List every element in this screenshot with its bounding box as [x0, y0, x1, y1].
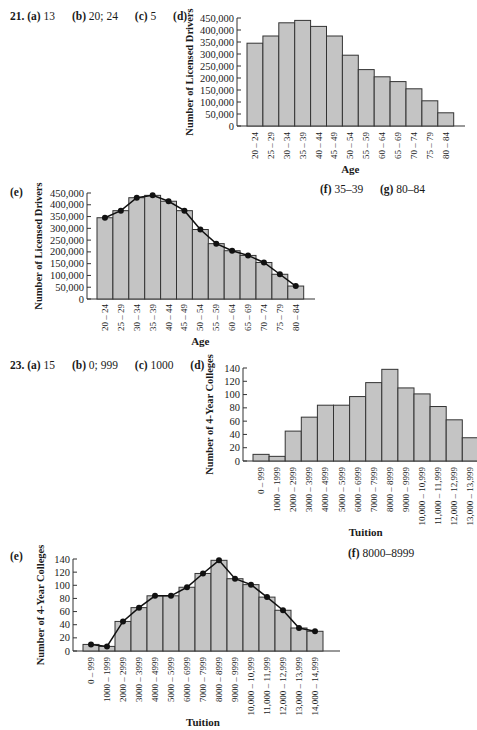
polygon-point: [216, 557, 222, 563]
y-tick-label: 60: [60, 606, 71, 617]
polygon-point: [200, 570, 206, 576]
polygon-point: [120, 618, 126, 624]
histogram-bar: [131, 608, 147, 651]
polygon-point: [296, 625, 302, 631]
x-category-label: 1000 – 1999: [102, 657, 112, 703]
y-tick-label: 0: [65, 646, 70, 657]
x-axis-title: Tuition: [186, 716, 220, 728]
y-tick-label: 80: [60, 593, 71, 604]
polygon-point: [88, 641, 94, 647]
histogram-bar: [291, 628, 307, 651]
x-category-label: 4000 – 4999: [150, 657, 160, 703]
x-category-label: 9000 – 9999: [230, 657, 240, 703]
polygon-point: [136, 605, 142, 611]
x-category-label: 8000 – 8999: [214, 657, 224, 703]
y-tick-label: 140: [54, 554, 70, 565]
x-category-label: 2000 – 2999: [118, 657, 128, 703]
polygon-point: [264, 594, 270, 600]
x-category-label: 7000 – 7999: [198, 657, 208, 703]
x-category-label: 13,000 – 13,999: [294, 657, 304, 716]
x-category-label: 0 – 999: [86, 657, 96, 685]
x-category-label: 5000 – 5999: [166, 657, 176, 703]
polygon-point: [280, 607, 286, 613]
polygon-point: [104, 643, 110, 649]
histogram-bar: [227, 579, 243, 651]
polygon-point: [248, 582, 254, 588]
x-category-label: 3000 – 3999: [134, 657, 144, 703]
polygon-point: [152, 593, 158, 599]
histogram-bar: [115, 621, 131, 651]
y-axis-title: Number of 4-Year Colleges: [35, 545, 46, 666]
histogram-bar: [243, 585, 259, 651]
y-tick-label: 100: [54, 580, 70, 591]
histogram-bar: [163, 596, 179, 651]
histogram-polygon-4-year-colleges: 020406080100120140Number of 4-Year Colle…: [0, 0, 477, 730]
x-category-label: 6000 – 6999: [182, 657, 192, 703]
x-category-label: 10,000 – 10,999: [246, 657, 256, 716]
polygon-point: [312, 628, 318, 634]
histogram-bar: [259, 597, 275, 651]
x-category-label: 14,000 – 14,999: [310, 657, 320, 716]
histogram-bar: [147, 596, 163, 651]
histogram-bar: [195, 573, 211, 651]
polygon-point: [168, 593, 174, 599]
x-category-label: 12,000 – 12,999: [278, 657, 288, 716]
y-tick-label: 120: [54, 567, 70, 578]
y-tick-label: 20: [60, 632, 71, 643]
histogram-bar: [211, 560, 227, 651]
histogram-bar: [179, 587, 195, 651]
polygon-point: [184, 584, 190, 590]
polygon-point: [232, 576, 238, 582]
y-tick-label: 40: [60, 619, 71, 630]
x-category-label: 11,000 – 11,999: [262, 657, 272, 715]
